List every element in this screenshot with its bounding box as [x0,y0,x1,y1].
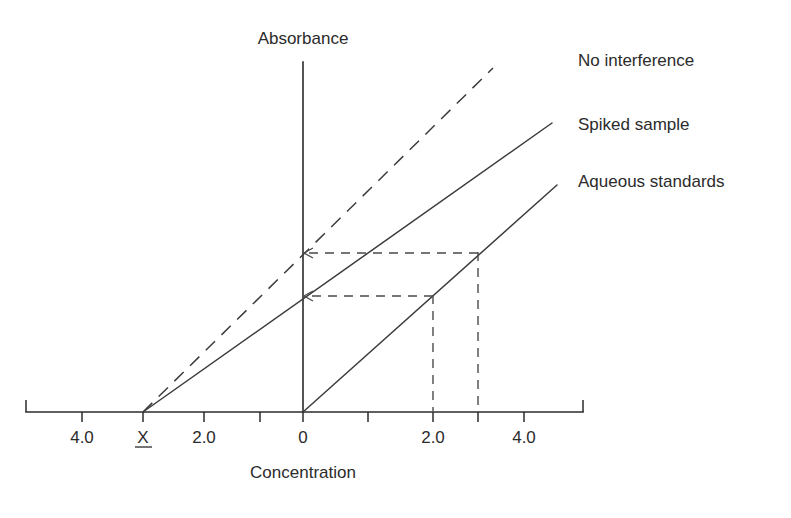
x-tick-label: 0 [298,428,307,447]
series-aqueous-standards [303,185,557,412]
legend-item-spiked-sample: Spiked sample [578,115,690,134]
x-tick-label: 4.0 [70,428,94,447]
legend-item-no-interference: No interference [578,51,694,70]
x-axis-title: Concentration [250,463,356,482]
x-tick-label: 4.0 [512,428,536,447]
x-tick-label: 2.0 [421,428,445,447]
x-intercept-marker: X [137,428,148,447]
legend-item-aqueous-standards: Aqueous standards [578,172,725,191]
x-tick-label: 2.0 [192,428,216,447]
standard-addition-plot: Absorbance 4.0 [0,0,791,518]
chart-figure: Absorbance 4.0 [0,0,791,518]
y-axis-title: Absorbance [258,29,349,48]
series-no-interference [143,68,493,412]
series-spiked-sample [143,123,552,412]
